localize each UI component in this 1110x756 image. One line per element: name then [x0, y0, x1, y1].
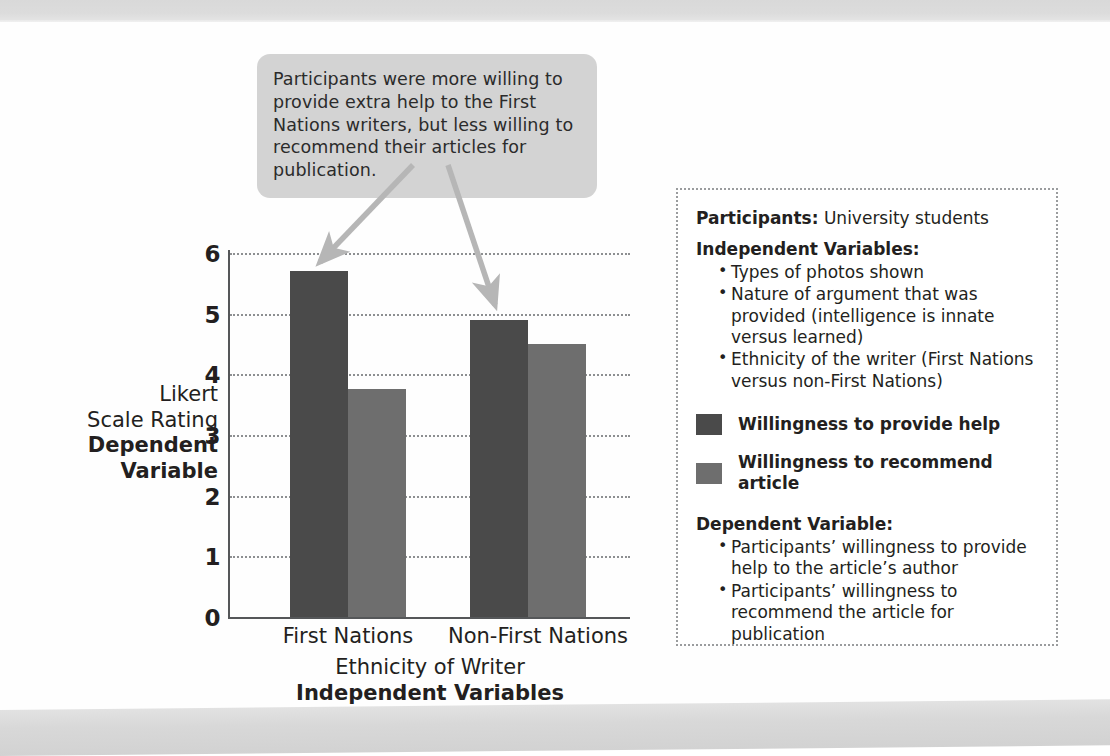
- bar-first-nations-recommend: [348, 389, 406, 617]
- y-axis-title-line2: Scale Rating: [60, 408, 218, 434]
- list-item: Participants’ willingness to recommend t…: [718, 581, 1040, 645]
- callout-bubble: Participants were more willing to provid…: [257, 54, 597, 198]
- list-item: Participants’ willingness to provide hel…: [718, 537, 1040, 580]
- y-tick-2: 2: [181, 484, 221, 510]
- y-tick-6: 6: [181, 241, 221, 267]
- participants-label: Participants:: [696, 208, 819, 228]
- list-item: Ethnicity of the writer (First Nations v…: [718, 349, 1040, 392]
- independent-variables-list: Types of photos shown Nature of argument…: [702, 262, 1040, 392]
- list-item: Nature of argument that was provided (in…: [718, 284, 1040, 348]
- gridline-6: [230, 253, 630, 255]
- independent-variables-heading: Independent Variables:: [696, 239, 1040, 260]
- y-axis-title-bold2: Variable: [60, 459, 218, 485]
- bar-nonfirst-nations-help: [470, 320, 528, 617]
- y-tick-0: 0: [181, 605, 221, 631]
- legend-item-recommend-article: Willingness to recommend article: [696, 452, 1040, 495]
- dependent-variable-heading: Dependent Variable:: [696, 514, 1040, 535]
- x-axis-line: [228, 617, 630, 619]
- y-axis-line: [228, 250, 230, 619]
- legend-label-recommend-article: Willingness to recommend article: [738, 452, 1040, 495]
- bar-nonfirst-nations-recommend: [528, 344, 586, 617]
- participants-value: University students: [819, 208, 989, 228]
- x-axis-title: Ethnicity of Writer: [228, 655, 632, 679]
- legend-swatch-light-icon: [696, 463, 722, 484]
- legend-item-provide-help: Willingness to provide help: [696, 414, 1040, 435]
- dependent-variable-list: Participants’ willingness to provide hel…: [702, 537, 1040, 645]
- y-axis-title: Likert Scale Rating Dependent Variable: [60, 382, 218, 484]
- list-item: Types of photos shown: [718, 262, 1040, 283]
- x-tick-non-first-nations: Non-First Nations: [438, 624, 638, 648]
- x-axis-subtitle: Independent Variables: [228, 681, 632, 705]
- y-axis-title-bold1: Dependent: [60, 433, 218, 459]
- legend-label-provide-help: Willingness to provide help: [738, 414, 1000, 435]
- y-tick-1: 1: [181, 544, 221, 570]
- study-info-box: Participants: University students Indepe…: [676, 188, 1058, 646]
- participants-row: Participants: University students: [696, 208, 1040, 229]
- y-axis-title-line1: Likert: [60, 382, 218, 408]
- y-tick-5: 5: [181, 302, 221, 328]
- legend-swatch-dark-icon: [696, 414, 722, 435]
- x-tick-first-nations: First Nations: [258, 624, 438, 648]
- bar-first-nations-help: [290, 271, 348, 617]
